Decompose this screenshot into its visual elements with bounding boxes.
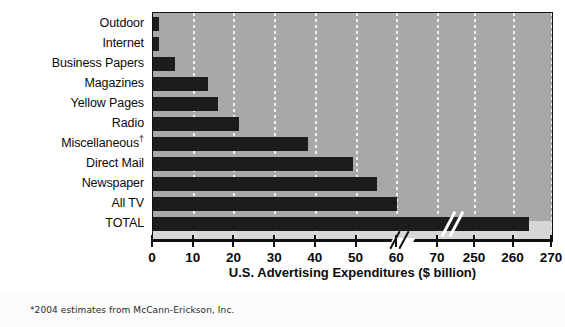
- bar: [153, 117, 239, 131]
- x-axis-tick-label: 0: [148, 250, 156, 265]
- bar: [153, 17, 159, 31]
- bar-chart-figure: OutdoorInternetBusiness PapersMagazinesY…: [0, 0, 565, 294]
- gridline: [474, 13, 476, 239]
- category-label-businesspapers: Business Papers: [52, 56, 144, 70]
- x-axis-tick: [473, 235, 475, 247]
- bar: [153, 157, 353, 171]
- x-axis-tick-label: 20: [226, 250, 241, 265]
- bar: [153, 77, 208, 91]
- category-label-alltv: All TV: [111, 196, 144, 210]
- x-axis-tick: [355, 235, 357, 247]
- x-axis-tick-label: 70: [429, 250, 444, 265]
- category-label-total: TOTAL: [105, 216, 144, 230]
- bar: [153, 97, 218, 111]
- x-axis-tick: [550, 235, 552, 247]
- chart-footnote: *2004 estimates from McCann-Erickson, In…: [30, 305, 234, 315]
- x-axis-title: U.S. Advertising Expenditures ($ billion…: [152, 265, 553, 280]
- category-label-newspaper: Newspaper: [82, 176, 144, 190]
- x-axis-tick-label: 10: [185, 250, 200, 265]
- category-label-miscellaneous: Miscellaneous†: [61, 136, 144, 150]
- category-label-magazines: Magazines: [84, 76, 144, 90]
- x-axis-line: 010203040506070250260270: [152, 240, 553, 242]
- bar: [153, 197, 397, 211]
- category-label-radio: Radio: [112, 116, 144, 130]
- x-axis-break-marker: [390, 230, 416, 250]
- x-axis-tick-label: 40: [307, 250, 322, 265]
- gridline: [513, 13, 515, 239]
- category-label-internet: Internet: [102, 36, 144, 50]
- x-axis-tick-label: 30: [267, 250, 282, 265]
- gridline: [437, 13, 439, 239]
- x-axis-tick: [232, 235, 234, 247]
- x-axis-tick-label: 260: [501, 250, 524, 265]
- x-axis-tick-label: 250: [463, 250, 486, 265]
- bar: [153, 137, 308, 151]
- x-axis-tick-label: 60: [389, 250, 404, 265]
- x-axis-tick: [151, 235, 153, 247]
- x-axis-tick: [314, 235, 316, 247]
- x-axis-tick-label: 270: [540, 250, 563, 265]
- bar-break-marker: [440, 213, 466, 235]
- gridline: [551, 13, 553, 239]
- bar: [153, 37, 159, 51]
- x-axis-tick: [192, 235, 194, 247]
- category-label-directmail: Direct Mail: [86, 156, 144, 170]
- bar: [153, 217, 529, 231]
- bar: [153, 177, 377, 191]
- x-axis-tick: [395, 235, 397, 247]
- x-axis-tick: [436, 235, 438, 247]
- x-axis-tick: [273, 235, 275, 247]
- plot-area: [152, 12, 553, 240]
- category-label-outdoor: Outdoor: [100, 16, 144, 30]
- bar: [153, 57, 175, 71]
- x-axis-tick: [512, 235, 514, 247]
- x-axis-tick-label: 50: [348, 250, 363, 265]
- category-axis-labels: OutdoorInternetBusiness PapersMagazinesY…: [0, 12, 148, 234]
- category-label-yellowpages: Yellow Pages: [71, 96, 144, 110]
